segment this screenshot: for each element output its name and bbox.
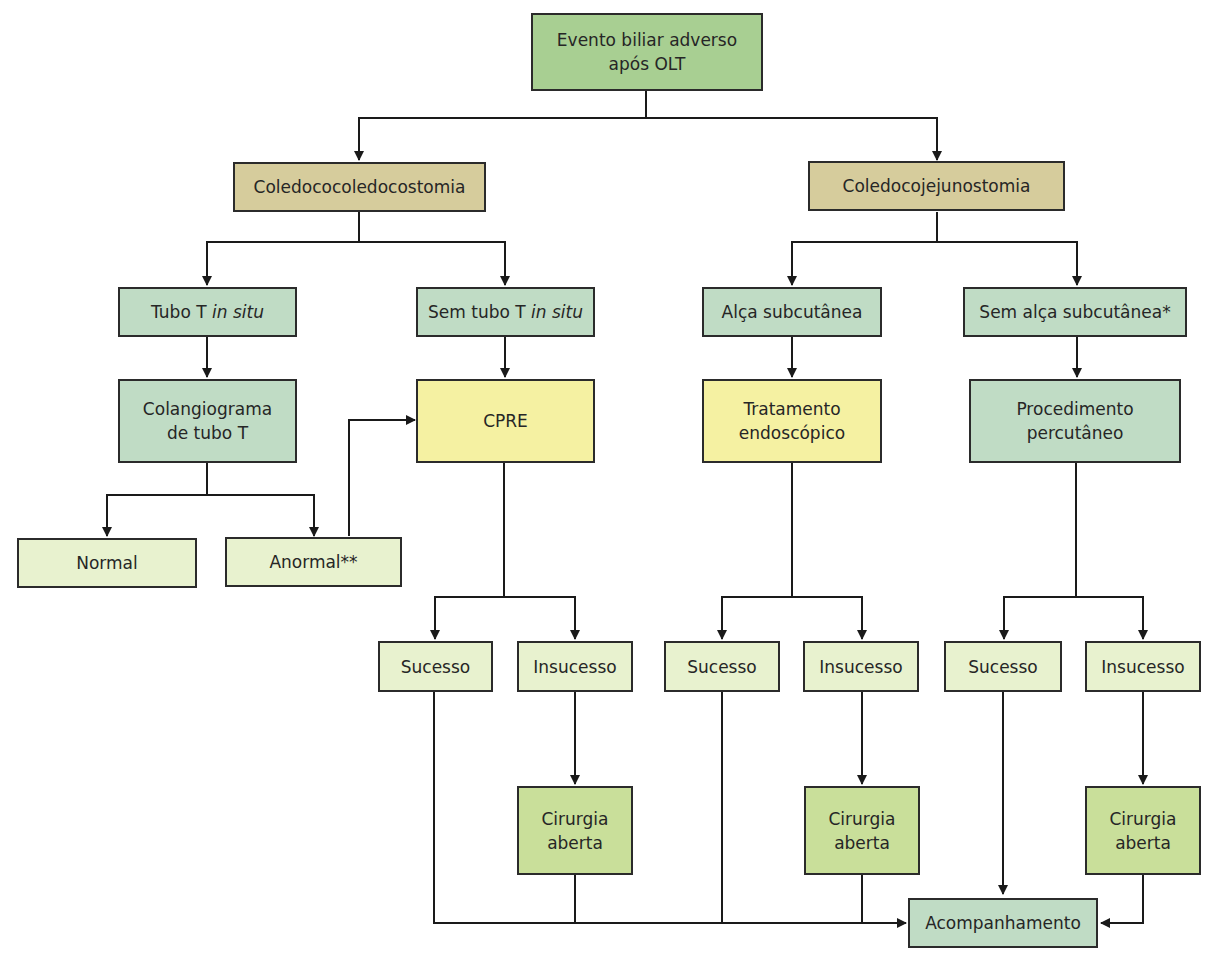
node-text: Acompanhamento <box>925 911 1081 935</box>
node-open-surgery-ercp: Cirurgia aberta <box>517 786 633 875</box>
node-text-italic: in situ <box>531 300 583 324</box>
node-follow-up: Acompanhamento <box>908 898 1098 948</box>
node-text: CPRE <box>483 409 528 433</box>
node-duct-to-duct: Coledococoledocostomia <box>233 162 486 212</box>
node-failure-percutaneous: Insucesso <box>1085 641 1201 692</box>
node-text: Anormal** <box>269 550 357 574</box>
node-text: Cirurgia <box>829 807 896 831</box>
node-percutaneous-procedure: Procedimento percutâneo <box>969 379 1181 463</box>
node-text: aberta <box>834 831 890 855</box>
node-abnormal: Anormal** <box>225 537 402 587</box>
node-normal: Normal <box>17 538 197 588</box>
node-open-surgery-percutaneous: Cirurgia aberta <box>1085 786 1201 875</box>
node-text: endoscópico <box>739 421 845 445</box>
node-text: Cirurgia <box>1110 807 1177 831</box>
node-text: Sem tubo T <box>428 300 531 324</box>
node-text: Sucesso <box>687 655 757 679</box>
node-text: Sucesso <box>401 655 471 679</box>
node-text: Sem alça subcutânea* <box>979 300 1170 324</box>
node-text: percutâneo <box>1027 421 1124 445</box>
node-text: Insucesso <box>819 655 902 679</box>
node-ercp: CPRE <box>416 379 595 463</box>
node-failure-ercp: Insucesso <box>517 641 633 692</box>
node-text: Alça subcutânea <box>722 300 863 324</box>
node-text: Coledocojejunostomia <box>843 174 1031 198</box>
node-open-surgery-endoscopic: Cirurgia aberta <box>804 786 920 875</box>
node-text: de tubo T <box>167 421 248 445</box>
node-t-tube-cholangiogram: Colangiograma de tubo T <box>118 379 297 463</box>
node-text: Insucesso <box>1101 655 1184 679</box>
node-text: Normal <box>76 551 138 575</box>
node-text: Cirurgia <box>542 807 609 831</box>
node-text-italic: in situ <box>212 300 264 324</box>
node-text: Sucesso <box>968 655 1038 679</box>
node-t-tube-in-situ: Tubo T in situ <box>118 287 297 337</box>
node-success-ercp: Sucesso <box>378 641 493 692</box>
node-success-endoscopic: Sucesso <box>664 641 780 692</box>
node-endoscopic-treatment: Tratamento endoscópico <box>702 379 882 463</box>
node-text: Evento biliar adverso <box>557 28 737 52</box>
node-text: Tratamento <box>743 397 840 421</box>
node-text: Procedimento <box>1016 397 1133 421</box>
node-failure-endoscopic: Insucesso <box>803 641 919 692</box>
node-adverse-biliary-event: Evento biliar adverso após OLT <box>531 13 763 91</box>
node-no-subcutaneous-loop: Sem alça subcutânea* <box>963 287 1187 337</box>
node-text: Colangiograma <box>143 397 272 421</box>
node-success-percutaneous: Sucesso <box>944 641 1062 692</box>
node-text: Insucesso <box>533 655 616 679</box>
node-text: Tubo T <box>151 300 212 324</box>
node-no-t-tube: Sem tubo T in situ <box>416 287 595 337</box>
node-roux-en-y: Coledocojejunostomia <box>808 161 1065 211</box>
node-text: aberta <box>1115 831 1171 855</box>
node-text: aberta <box>547 831 603 855</box>
node-text: Coledococoledocostomia <box>254 175 466 199</box>
node-text: após OLT <box>609 52 686 76</box>
node-subcutaneous-loop: Alça subcutânea <box>702 287 882 337</box>
